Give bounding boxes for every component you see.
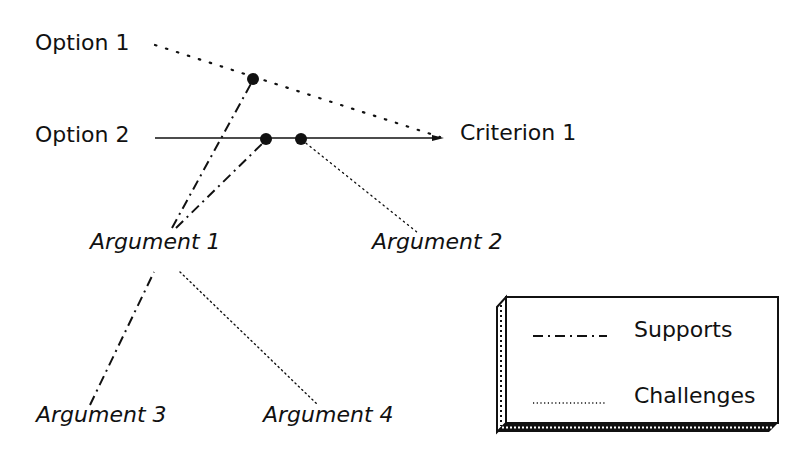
- arrowhead-icon: [432, 135, 444, 141]
- edge-argument1-supports-option1-link: [172, 80, 253, 228]
- edge-argument4-challenges-argument1: [180, 272, 318, 405]
- node-option-2[interactable]: Option 2: [35, 122, 129, 148]
- junction-node-option1-link[interactable]: [247, 73, 259, 85]
- edge-argument3-supports-argument1: [90, 272, 154, 405]
- node-argument-4[interactable]: Argument 4: [263, 402, 394, 428]
- junction-node-option2-link-a[interactable]: [260, 133, 272, 145]
- node-option-1[interactable]: Option 1: [35, 30, 129, 56]
- node-argument-2[interactable]: Argument 2: [372, 229, 503, 255]
- node-criterion-1[interactable]: Criterion 1: [460, 120, 576, 146]
- legend-supports-label: Supports: [634, 317, 732, 343]
- junction-node-option2-link-b[interactable]: [295, 133, 307, 145]
- edge-argument2-challenges-option2-link: [302, 140, 418, 233]
- edge-option1-criterion1: [155, 45, 440, 137]
- node-argument-3[interactable]: Argument 3: [36, 402, 167, 428]
- edge-argument1-supports-option2-link: [176, 140, 266, 228]
- node-argument-1[interactable]: Argument 1: [90, 229, 221, 255]
- legend-challenges-label: Challenges: [634, 383, 755, 409]
